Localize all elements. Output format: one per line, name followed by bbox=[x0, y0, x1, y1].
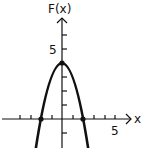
function-graph: F(x) x 5 5 bbox=[0, 0, 145, 148]
root-point-right bbox=[80, 116, 85, 121]
vertex-point bbox=[59, 60, 64, 65]
y-axis-label: F(x) bbox=[48, 2, 71, 16]
root-point-left bbox=[38, 116, 43, 121]
x-tick-label-5: 5 bbox=[111, 124, 119, 138]
x-axis-label: x bbox=[134, 112, 141, 126]
y-ticks bbox=[62, 35, 67, 133]
y-tick-label-5: 5 bbox=[49, 43, 57, 57]
